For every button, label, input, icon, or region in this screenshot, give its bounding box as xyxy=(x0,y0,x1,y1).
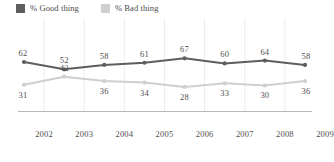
data-label: 36 xyxy=(100,86,109,96)
data-point xyxy=(223,81,227,85)
x-axis-tick-label: 2004 xyxy=(115,129,133,139)
data-point xyxy=(182,85,186,89)
plot-svg xyxy=(0,18,323,130)
data-point xyxy=(102,63,106,67)
data-point xyxy=(142,61,146,65)
data-point xyxy=(263,58,267,62)
data-label: 52 xyxy=(60,55,69,65)
data-point xyxy=(62,75,66,79)
x-axis-labels: 20022003200420052006200720082009 xyxy=(0,129,323,145)
data-point xyxy=(303,63,307,67)
x-axis-tick-label: 2003 xyxy=(75,129,93,139)
legend-label-good: % Good thing xyxy=(30,4,79,13)
data-point xyxy=(182,56,186,60)
data-label: 67 xyxy=(180,44,189,54)
data-label: 30 xyxy=(260,90,269,100)
data-point xyxy=(263,83,267,87)
data-label: 28 xyxy=(180,92,189,102)
data-point xyxy=(22,60,26,64)
data-label: 33 xyxy=(220,88,229,98)
legend-swatch-bad-icon xyxy=(101,4,110,13)
data-point xyxy=(142,80,146,84)
data-label: 60 xyxy=(220,49,229,59)
data-label: 36 xyxy=(302,86,311,96)
x-axis-tick-label: 2005 xyxy=(156,129,174,139)
data-point xyxy=(102,79,106,83)
x-axis-tick-label: 2008 xyxy=(276,129,294,139)
x-axis-tick-label: 2007 xyxy=(236,129,254,139)
chart-legend: % Good thing % Bad thing xyxy=(16,2,159,15)
x-axis-tick-label: 2002 xyxy=(35,129,53,139)
data-label: 61 xyxy=(140,49,149,59)
data-label: 31 xyxy=(19,90,28,100)
legend-swatch-good-icon xyxy=(16,4,25,13)
x-axis-tick-label: 2006 xyxy=(196,129,214,139)
data-label: 58 xyxy=(100,51,109,61)
legend-label-bad: % Bad thing xyxy=(115,4,159,13)
data-point xyxy=(223,61,227,65)
plot-area: 31423634283330366252586167606458 xyxy=(0,18,323,126)
x-axis-tick-label: 2009 xyxy=(316,129,334,139)
data-label: 62 xyxy=(19,48,28,58)
data-label: 34 xyxy=(140,88,149,98)
data-point xyxy=(303,79,307,83)
data-label: 58 xyxy=(302,51,311,61)
data-label: 64 xyxy=(260,47,269,57)
data-point xyxy=(22,83,26,87)
legend-item-bad: % Bad thing xyxy=(101,4,159,13)
legend-item-good: % Good thing xyxy=(16,4,79,13)
